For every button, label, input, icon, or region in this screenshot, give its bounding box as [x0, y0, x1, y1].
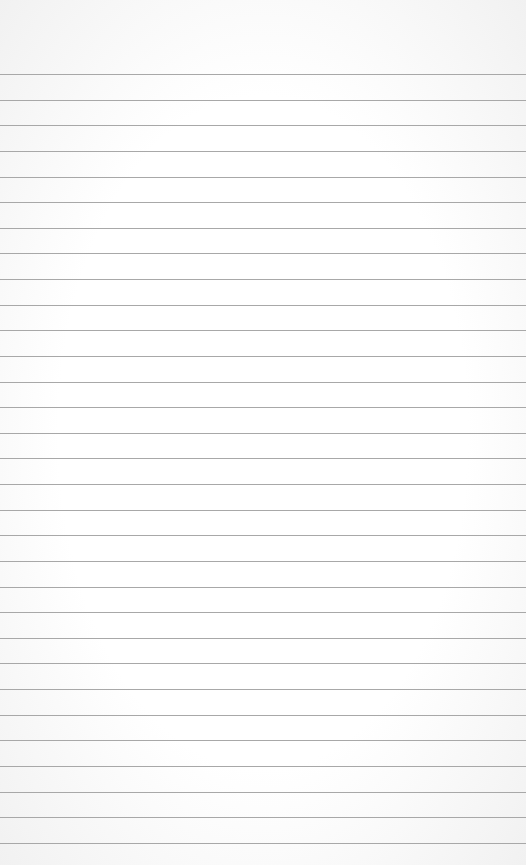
ruled-line [0, 561, 526, 562]
ruled-line [0, 100, 526, 101]
ruled-line [0, 484, 526, 485]
ruled-line [0, 279, 526, 280]
ruled-line [0, 356, 526, 357]
ruled-line [0, 202, 526, 203]
ruled-line [0, 330, 526, 331]
ruled-line [0, 817, 526, 818]
ruled-line [0, 740, 526, 741]
ruled-line [0, 663, 526, 664]
ruled-line [0, 253, 526, 254]
ruled-line [0, 689, 526, 690]
ruled-line [0, 843, 526, 844]
ruled-line [0, 151, 526, 152]
ruled-line [0, 382, 526, 383]
ruled-line [0, 535, 526, 536]
ruled-line [0, 228, 526, 229]
ruled-line [0, 177, 526, 178]
lined-paper-sheet [0, 0, 526, 865]
ruled-line [0, 125, 526, 126]
ruled-line [0, 458, 526, 459]
ruled-line [0, 715, 526, 716]
ruled-line [0, 510, 526, 511]
ruled-line [0, 792, 526, 793]
ruled-line [0, 305, 526, 306]
ruled-line [0, 407, 526, 408]
ruled-line [0, 766, 526, 767]
ruled-line [0, 74, 526, 75]
ruled-line [0, 587, 526, 588]
ruled-line [0, 612, 526, 613]
ruled-line [0, 638, 526, 639]
ruled-line [0, 433, 526, 434]
